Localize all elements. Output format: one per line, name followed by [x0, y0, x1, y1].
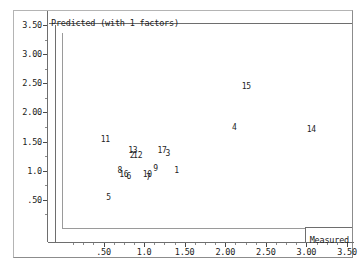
x-axis-minor-tick: [235, 243, 236, 245]
data-point-label: 4: [232, 124, 237, 132]
x-axis-tick-label: 1.0: [137, 248, 152, 257]
x-axis-minor-tick: [154, 243, 155, 245]
y-axis-minor-tick: [45, 214, 47, 215]
y-axis-tick-mark: [43, 83, 47, 84]
x-axis-minor-tick: [73, 243, 74, 245]
x-axis-minor-tick: [93, 243, 94, 245]
y-axis-tick-mark: [43, 171, 47, 172]
y-axis-minor-tick: [45, 156, 47, 157]
y-axis-tick-label: 1.50: [22, 138, 42, 147]
x-axis-minor-tick: [276, 243, 277, 245]
x-axis-title-box: Measured: [305, 227, 352, 242]
y-axis-tick-mark: [43, 112, 47, 113]
plot-title-strip: Predicted (with 1 factors): [49, 11, 352, 24]
x-axis-minor-tick: [256, 243, 257, 245]
y-axis-tick-mark: [43, 142, 47, 143]
x-axis-minor-tick: [134, 243, 135, 245]
y-axis-minor-tick: [45, 69, 47, 70]
y-axis-tick-mark: [43, 200, 47, 201]
x-axis-minor-tick: [114, 243, 115, 245]
data-point-label: 6: [126, 173, 131, 181]
x-axis-minor-tick: [195, 243, 196, 245]
data-point-label: 14: [307, 126, 316, 134]
y-axis-minor-tick: [45, 40, 47, 41]
x-axis-minor-tick: [175, 243, 176, 245]
x-axis-minor-tick: [296, 243, 297, 245]
x-axis-minor-tick: [124, 243, 125, 245]
plot-window: .501.01.502.002.503.003.50 Predicted (wi…: [13, 10, 353, 258]
x-axis-tick-label: .50: [96, 248, 111, 257]
x-axis-minor-tick: [205, 243, 206, 245]
y-axis-tick-label: 3.50: [22, 21, 42, 30]
x-axis-label: Measured: [310, 235, 349, 245]
x-axis-minor-tick: [164, 243, 165, 245]
y-axis-tick-gutter: .501.01.502.002.503.003.50: [14, 11, 48, 242]
x-axis-minor-tick: [83, 243, 84, 245]
y-axis-tick-label: .50: [27, 196, 42, 205]
x-axis-tick-label: 2.00: [215, 248, 235, 257]
x-axis: .501.01.502.002.503.003.50: [48, 242, 354, 258]
y-axis-tick-mark: [43, 54, 47, 55]
plot-area: [62, 33, 347, 229]
data-point-label: 15: [242, 83, 251, 91]
y-axis-tick-label: 1.0: [27, 167, 42, 176]
x-axis-tick-label: 3.00: [297, 248, 317, 257]
y-axis-minor-tick: [45, 185, 47, 186]
y-axis-tick-label: 2.00: [22, 108, 42, 117]
data-point-label: 12: [133, 152, 142, 160]
x-axis-minor-tick: [286, 243, 287, 245]
data-point-label: 5: [106, 194, 111, 202]
y-axis-tick-label: 3.00: [22, 50, 42, 59]
x-axis-tick-label: 3.50: [337, 248, 357, 257]
y-axis-minor-tick: [45, 127, 47, 128]
x-axis-tick-label: 2.50: [256, 248, 276, 257]
x-axis-tick-label: 1.50: [175, 248, 195, 257]
y-axis-spine: [55, 25, 56, 242]
y-axis-tick-label: 2.50: [22, 79, 42, 88]
y-axis-minor-tick: [45, 98, 47, 99]
x-axis-minor-tick: [246, 243, 247, 245]
y-axis-tick-mark: [43, 25, 47, 26]
data-point-label: 3: [165, 150, 170, 158]
page-title: Predicted (with 1 factors): [51, 18, 179, 28]
data-point-label: 11: [101, 136, 110, 144]
data-point-label: 7: [146, 174, 151, 182]
x-axis-minor-tick: [215, 243, 216, 245]
data-point-label: 1: [174, 167, 179, 175]
data-point-label: 9: [153, 165, 158, 173]
